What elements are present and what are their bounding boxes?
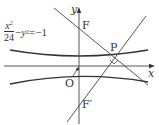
y-axis-arrow-icon [77,7,81,13]
x-axis-label: x [148,68,154,79]
equation-numerator-exponent: 2 [10,20,13,26]
origin-pointer-arrow-icon [76,67,80,72]
hyperbola-equation: x2 24 − y2 =−1 [4,20,47,43]
hyperbola-diagram [0,0,159,125]
line-through-F-P [54,8,148,85]
focus-f-label: F [82,20,90,31]
equation-fraction: x2 24 [4,20,14,43]
equation-rhs: =−1 [29,26,47,38]
focus-f-prime-label: F′ [82,99,92,110]
point-p-label: P [110,42,117,53]
y-axis-label: y [71,4,77,15]
equation-denominator: 24 [4,32,14,43]
origin-label: O [65,78,74,89]
